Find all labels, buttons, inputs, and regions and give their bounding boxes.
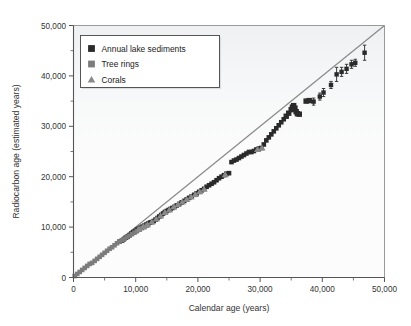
y-tick-label: 50,000 xyxy=(41,22,66,31)
data-point-square xyxy=(318,94,322,98)
x-tick-label: 20,000 xyxy=(185,285,210,294)
data-point-square xyxy=(297,112,302,117)
y-tick-label: 20,000 xyxy=(41,173,66,182)
x-axis-title: Calendar age (years) xyxy=(189,303,270,313)
x-tick-label: 40,000 xyxy=(310,285,335,294)
y-tick-label: 0 xyxy=(61,274,66,283)
y-axis-title: Radiocarbon age (estimated years) xyxy=(11,84,21,218)
data-point-square xyxy=(227,171,232,176)
data-point-square xyxy=(339,70,343,74)
legend-entry-annual-lake-sediments: Annual lake sediments xyxy=(88,44,186,54)
radiocarbon-calibration-figure: 010,00020,00030,00040,00050,000010,00020… xyxy=(0,0,411,326)
legend-marker-square xyxy=(88,61,95,68)
data-point-square xyxy=(353,61,357,65)
x-tick-label: 50,000 xyxy=(372,285,397,294)
data-point-square xyxy=(307,98,312,103)
x-tick-label: 0 xyxy=(71,285,76,294)
legend-marker-square xyxy=(88,45,95,52)
x-tick-label: 30,000 xyxy=(248,285,273,294)
chart-legend: Annual lake sedimentsTree ringsCorals xyxy=(81,36,222,90)
legend-label: Corals xyxy=(102,75,126,85)
scatter-plot-canvas: 010,00020,00030,00040,00050,000010,00020… xyxy=(0,0,411,326)
data-point-square xyxy=(321,90,325,94)
legend-label: Tree rings xyxy=(102,59,139,69)
y-tick-label: 40,000 xyxy=(41,72,66,81)
data-point-square xyxy=(334,72,338,76)
x-tick-label: 10,000 xyxy=(123,285,148,294)
data-point-square xyxy=(329,83,333,87)
legend-label: Annual lake sediments xyxy=(102,44,186,54)
data-point-square xyxy=(344,67,348,71)
data-point-square xyxy=(311,99,315,103)
y-tick-label: 10,000 xyxy=(41,223,66,232)
y-tick-label: 30,000 xyxy=(41,122,66,131)
data-point-square xyxy=(362,51,366,55)
